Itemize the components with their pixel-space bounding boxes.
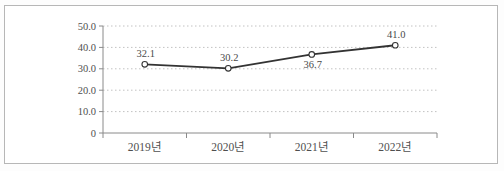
x-axis-category-label: 2022년 — [378, 141, 412, 153]
y-axis-tick-label: 40.0 — [78, 42, 96, 53]
y-axis-tick-label: 30.0 — [78, 63, 96, 74]
y-axis-tick-label: 0 — [91, 128, 96, 139]
x-axis-category-label: 2021년 — [295, 141, 329, 153]
data-point-marker — [392, 42, 398, 48]
data-point-label: 36.7 — [304, 59, 322, 70]
data-point-marker — [142, 62, 148, 68]
line-chart: 010.020.030.040.050.02019년2020년2021년2022… — [0, 0, 504, 171]
data-point-marker — [225, 66, 231, 72]
data-point-label: 32.1 — [137, 48, 155, 59]
data-line — [145, 45, 396, 68]
data-point-label: 30.2 — [220, 52, 238, 63]
data-point-label: 41.0 — [387, 29, 405, 40]
y-axis-tick-label: 50.0 — [78, 21, 96, 32]
y-axis-tick-label: 20.0 — [78, 85, 96, 96]
data-point-marker — [309, 52, 315, 58]
x-axis-category-label: 2019년 — [128, 141, 162, 153]
x-axis-category-label: 2020년 — [211, 141, 245, 153]
chart-figure: 010.020.030.040.050.02019년2020년2021년2022… — [0, 0, 504, 171]
y-axis-tick-label: 10.0 — [78, 106, 96, 117]
